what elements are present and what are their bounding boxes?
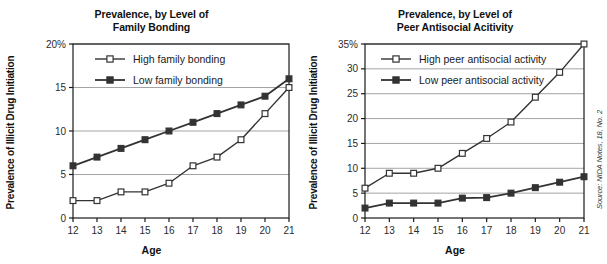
data-point-marker [94, 198, 100, 204]
line-chart-family-bonding: 12131415161718192021 05101520% High fami… [0, 0, 303, 264]
y-tick-label: 30 [347, 63, 359, 74]
data-point-marker [459, 150, 465, 156]
data-point-marker [484, 195, 490, 201]
y-tick-label: 5 [60, 169, 66, 180]
x-axis-title: Age [0, 244, 303, 256]
x-axis-title: Age [303, 244, 607, 256]
data-point-marker [214, 154, 220, 160]
legend-right: High peer antisocial activityLow peer an… [381, 53, 547, 86]
data-point-marker [532, 94, 538, 100]
y-tick-label: 20 [347, 113, 359, 124]
x-tick-label: 19 [530, 225, 542, 236]
data-point-marker [581, 41, 587, 47]
legend-label: Low peer antisocial activity [419, 74, 545, 86]
data-point-marker [411, 200, 417, 206]
figure-two-panel-charts: Prevalence, by Level of Family Bonding P… [0, 0, 607, 264]
data-point-marker [238, 137, 244, 143]
legend-marker [393, 77, 399, 83]
data-point-marker [286, 85, 292, 91]
data-point-marker [435, 200, 441, 206]
y-tick-label: 15 [347, 138, 359, 149]
data-point-marker [142, 137, 148, 143]
data-point-marker [142, 189, 148, 195]
chart-panel-peer-antisocial: Prevalence, by Level of Peer Antisocial … [303, 0, 607, 264]
series-line [365, 44, 584, 188]
plot-area-peer-antisocial: 12131415161718192021 05101520253035% Hig… [303, 0, 607, 264]
y-tick-label: 25 [347, 88, 359, 99]
y-tick-label: 20% [46, 39, 66, 50]
x-tick-label: 17 [481, 225, 493, 236]
x-tick-label: 14 [115, 225, 127, 236]
x-tick-label: 18 [505, 225, 517, 236]
data-point-marker [435, 165, 441, 171]
data-point-marker [70, 163, 76, 169]
y-axis-ticks-right: 05101520253035% [338, 39, 365, 224]
legend-marker [107, 56, 113, 62]
y-tick-label: 10 [55, 126, 67, 137]
y-tick-label: 0 [352, 213, 358, 224]
x-tick-label: 16 [163, 225, 175, 236]
data-point-marker [411, 170, 417, 176]
x-tick-label: 20 [554, 225, 566, 236]
legend-left: High family bondingLow family bonding [95, 53, 225, 86]
data-point-marker [118, 189, 124, 195]
data-point-marker [557, 69, 563, 75]
data-point-marker [484, 136, 490, 142]
plot-frame-right [365, 44, 584, 218]
chart-panel-family-bonding: Prevalence, by Level of Family Bonding P… [0, 0, 303, 264]
x-tick-label: 13 [91, 225, 103, 236]
data-point-marker [118, 146, 124, 152]
data-point-marker [214, 111, 220, 117]
series-line [365, 177, 584, 208]
x-axis-ticks-right: 12131415161718192021 [359, 218, 590, 236]
data-point-marker [508, 119, 514, 125]
x-tick-label: 17 [187, 225, 199, 236]
data-point-marker [166, 128, 172, 134]
data-point-marker [262, 111, 268, 117]
y-tick-label: 10 [347, 163, 359, 174]
gridlines-right [365, 44, 584, 193]
x-tick-label: 21 [283, 225, 295, 236]
x-tick-label: 15 [139, 225, 151, 236]
data-point-marker [532, 185, 538, 191]
plot-area-family-bonding: 12131415161718192021 05101520% High fami… [0, 0, 303, 264]
legend-marker [393, 56, 399, 62]
data-point-marker [190, 163, 196, 169]
data-point-marker [386, 170, 392, 176]
series-line [73, 88, 289, 201]
legend-label: Low family bonding [133, 74, 223, 86]
legend-label: High family bonding [133, 53, 225, 65]
data-point-marker [190, 119, 196, 125]
x-axis-ticks-left: 12131415161718192021 [67, 218, 295, 236]
data-point-marker [386, 200, 392, 206]
x-tick-label: 12 [67, 225, 79, 236]
data-point-marker [557, 179, 563, 185]
data-point-marker [70, 198, 76, 204]
legend-label: High peer antisocial activity [419, 53, 547, 65]
data-point-marker [94, 154, 100, 160]
data-series-left [70, 76, 292, 204]
x-tick-label: 15 [432, 225, 444, 236]
data-point-marker [166, 180, 172, 186]
x-tick-label: 14 [408, 225, 420, 236]
x-tick-label: 16 [457, 225, 469, 236]
y-tick-label: 0 [60, 213, 66, 224]
y-tick-label: 15 [55, 82, 67, 93]
data-point-marker [508, 190, 514, 196]
x-tick-label: 21 [578, 225, 590, 236]
x-tick-label: 13 [384, 225, 396, 236]
x-tick-label: 19 [235, 225, 247, 236]
legend-marker [107, 77, 113, 83]
x-tick-label: 18 [211, 225, 223, 236]
data-series-right [362, 41, 587, 211]
data-point-marker [581, 174, 587, 180]
data-point-marker [362, 185, 368, 191]
data-point-marker [238, 102, 244, 108]
data-point-marker [459, 195, 465, 201]
x-tick-label: 12 [359, 225, 371, 236]
source-note: Source: NIDA Notes, 18, No. 2 [592, 84, 606, 234]
data-point-marker [286, 76, 292, 82]
x-tick-label: 20 [259, 225, 271, 236]
y-tick-label: 5 [352, 188, 358, 199]
line-chart-peer-antisocial: 12131415161718192021 05101520253035% Hig… [303, 0, 607, 264]
